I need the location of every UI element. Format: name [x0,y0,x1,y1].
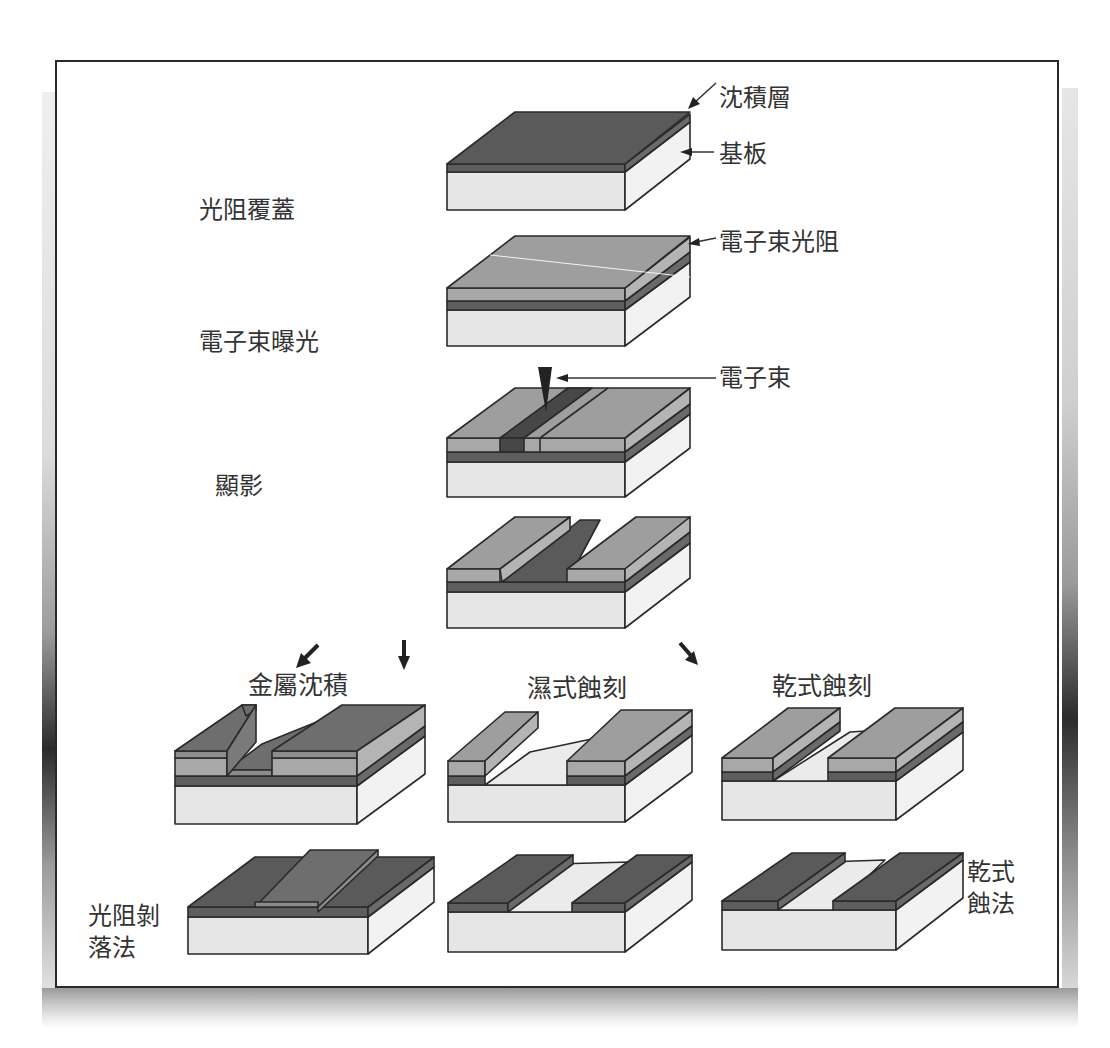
label-substrate: 基板 [719,140,767,168]
label-lift-off-line1: 光阻剝 [88,902,160,930]
label-wet-etching: 濕式蝕刻 [527,675,627,703]
label-ebeam: 電子束 [719,364,791,392]
arrow-down-right-icon [680,643,698,665]
block-substrate-deposit [447,112,690,210]
block-wet-etch-result [448,855,692,952]
label-dry-etch-method-line2: 蝕法 [967,890,1015,918]
arrow-down-icon [398,640,410,670]
block-ebeam-exposure [447,388,690,497]
label-ebeam-exposure: 電子束曝光 [199,328,319,356]
label-deposition-layer: 沈積層 [719,84,791,112]
label-lift-off-line2: 落法 [88,934,136,962]
pointer-ebeam-resist [688,238,716,246]
block-metal-deposition [175,705,425,824]
arrow-down-left-icon [296,645,318,668]
block-dry-etching [722,708,963,820]
label-development: 顯影 [215,472,263,500]
block-developed [447,517,690,628]
label-resist-coating: 光阻覆蓋 [199,196,295,224]
label-dry-etch-method-line1: 乾式 [967,858,1015,886]
block-resist-coated [447,236,690,346]
ebeam-lithography-diagram: .o{stroke:#2a2a2a;stroke-width:1.6;strok… [0,0,1110,1048]
block-dry-etch-result [722,853,963,950]
label-metal-deposition: 金屬沈積 [248,672,348,700]
pointer-deposition-layer [688,83,716,109]
block-wet-etching [448,710,692,822]
label-dry-etching: 乾式蝕刻 [772,673,872,701]
block-lift-off-result [188,850,434,954]
label-ebeam-resist: 電子束光阻 [719,228,839,256]
